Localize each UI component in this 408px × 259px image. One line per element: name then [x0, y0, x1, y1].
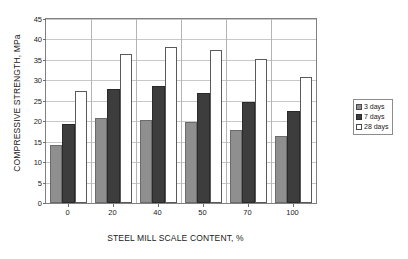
- y-axis-tick-mark: [43, 183, 46, 184]
- category-separator: [181, 19, 182, 203]
- legend-item-3-days: 3 days: [356, 102, 389, 112]
- y-axis-tick-mark: [43, 203, 46, 204]
- x-axis-tick-mark: [293, 204, 294, 207]
- legend-label: 28 days: [364, 122, 389, 132]
- bar-28-days-70: [255, 59, 268, 203]
- category-separator: [91, 19, 92, 203]
- y-axis-tick-label: 40: [34, 35, 42, 44]
- bar-7-days-50: [197, 93, 210, 203]
- y-axis-tick-label: 30: [34, 76, 42, 85]
- bar-28-days-20: [120, 54, 133, 203]
- bar-3-days-50: [185, 122, 198, 203]
- category-separator: [271, 19, 272, 203]
- bar-7-days-100: [287, 111, 300, 203]
- y-axis-title: COMPRESSIVE STRENGTH, MPa: [10, 3, 24, 203]
- x-axis-tick-mark: [203, 204, 204, 207]
- y-axis-tick-label: 15: [34, 137, 42, 146]
- x-axis-tick-mark: [248, 204, 249, 207]
- y-axis-tick-mark: [43, 39, 46, 40]
- x-axis-tick-label: 50: [198, 208, 206, 217]
- x-axis-tick-label: 40: [153, 208, 161, 217]
- bar-7-days-0: [62, 124, 75, 203]
- y-axis-tick-mark: [43, 60, 46, 61]
- x-axis-tick-label: 100: [286, 208, 299, 217]
- chart-legend: 3 days7 days28 days: [353, 99, 393, 135]
- y-axis-tick-mark: [43, 80, 46, 81]
- x-axis-tick-mark: [68, 204, 69, 207]
- legend-swatch-icon: [356, 124, 362, 130]
- bar-7-days-40: [152, 86, 165, 203]
- x-axis-tick-label: 0: [65, 208, 69, 217]
- bar-28-days-50: [210, 50, 223, 203]
- x-axis-title: STEEL MILL SCALE CONTENT, %: [33, 233, 318, 243]
- bar-28-days-40: [165, 47, 178, 203]
- y-axis-tick-mark: [43, 19, 46, 20]
- y-axis-tick-label: 25: [34, 96, 42, 105]
- plot-inner: 051015202530354045: [46, 19, 316, 203]
- x-axis-tick-mark: [113, 204, 114, 207]
- bar-3-days-70: [230, 130, 243, 203]
- bar-3-days-100: [275, 136, 288, 203]
- legend-swatch-icon: [356, 114, 362, 120]
- category-separator: [136, 19, 137, 203]
- legend-swatch-icon: [356, 104, 362, 110]
- y-axis-tick-label: 0: [38, 199, 42, 208]
- bar-3-days-40: [140, 120, 153, 203]
- bar-3-days-0: [50, 145, 63, 203]
- legend-label: 3 days: [364, 102, 385, 112]
- x-axis-tick-label: 70: [243, 208, 251, 217]
- y-axis-tick-mark: [43, 162, 46, 163]
- x-axis-tick-mark: [158, 204, 159, 207]
- chart-figure: COMPRESSIVE STRENGTH, MPa 05101520253035…: [0, 0, 408, 259]
- y-axis-tick-label: 45: [34, 15, 42, 24]
- y-axis-tick-mark: [43, 101, 46, 102]
- x-axis-tick-label: 20: [108, 208, 116, 217]
- bar-28-days-100: [300, 77, 313, 203]
- y-axis-tick-label: 5: [38, 178, 42, 187]
- bar-7-days-70: [242, 102, 255, 203]
- y-axis-tick-mark: [43, 142, 46, 143]
- legend-item-7-days: 7 days: [356, 112, 389, 122]
- category-separator: [226, 19, 227, 203]
- y-axis-tick-label: 20: [34, 117, 42, 126]
- y-axis-tick-label: 35: [34, 55, 42, 64]
- plot-area: 051015202530354045: [45, 18, 317, 204]
- legend-label: 7 days: [364, 112, 385, 122]
- bar-7-days-20: [107, 89, 120, 203]
- bar-3-days-20: [95, 118, 108, 203]
- y-axis-tick-mark: [43, 121, 46, 122]
- y-axis-tick-label: 10: [34, 158, 42, 167]
- bar-28-days-0: [75, 91, 88, 203]
- legend-item-28-days: 28 days: [356, 122, 389, 132]
